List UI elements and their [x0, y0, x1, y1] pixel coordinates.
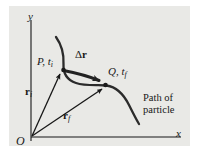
y-axis-label: y [28, 11, 33, 22]
x-axis-label: x [176, 128, 181, 139]
position-vector-initial-label: ri [25, 86, 32, 99]
position-vector-final-subscript: f [68, 114, 70, 123]
position-vector-initial-subscript: i [30, 90, 32, 99]
origin-label: O [16, 135, 25, 147]
path-caption-line-2: particle [143, 104, 174, 116]
point-p-text: P, t [37, 55, 51, 67]
point-q-text: Q, t [108, 65, 125, 77]
point-marker-q [103, 83, 108, 88]
point-p-label: P, ti [37, 56, 53, 69]
path-caption: Path of particle [143, 92, 174, 116]
position-vector-final-label: rf [63, 110, 70, 123]
displacement-vector-label: Δr [75, 49, 87, 60]
point-p-subscript: i [51, 60, 53, 69]
figure-root: y x O P, ti Δr Q, tf ri rf Path of parti… [0, 0, 199, 167]
point-marker-p [61, 68, 66, 73]
point-q-subscript: f [125, 70, 127, 79]
displacement-vector-letter: r [82, 48, 87, 60]
path-caption-line-1: Path of [143, 92, 174, 104]
figure-vector-graphics [0, 0, 199, 167]
point-q-label: Q, tf [108, 66, 127, 79]
